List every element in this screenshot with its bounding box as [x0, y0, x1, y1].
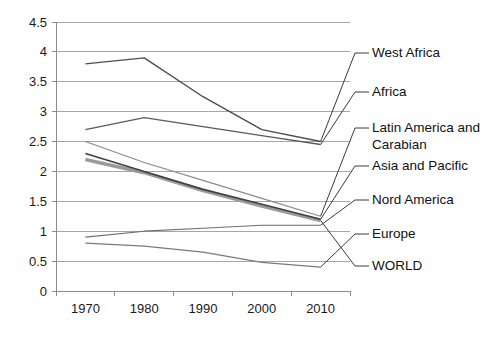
series-line	[85, 58, 320, 142]
x-axis-tick-label: 1970	[71, 301, 100, 316]
legend-label[interactable]: Nord America	[372, 192, 454, 207]
y-axis-tick-label: 0.5	[29, 254, 47, 269]
y-axis-tick-labels: 00.511.522.533.544.5	[29, 15, 47, 299]
legend-label[interactable]: WORLD	[372, 258, 423, 273]
x-axis-tick-label: 2000	[247, 301, 276, 316]
y-axis-tick-label: 2	[40, 164, 47, 179]
y-axis-tick-label: 0	[40, 284, 47, 299]
legend-labels: West AfricaAfricaLatin America andCarabi…	[372, 45, 480, 273]
legend-label[interactable]: Latin America and	[372, 120, 480, 135]
chart-container: 00.511.522.533.544.5 1970198019902000201…	[0, 0, 500, 348]
legend-label-continuation[interactable]: Carabian	[372, 137, 427, 152]
callout-leader-line	[321, 234, 369, 267]
line-chart: 00.511.522.533.544.5 1970198019902000201…	[0, 0, 500, 348]
series-line	[85, 118, 320, 145]
x-axis-tick-label: 2010	[306, 301, 335, 316]
series-line	[85, 142, 320, 217]
x-axis-tick-label: 1990	[189, 301, 218, 316]
y-axis-tick-label: 1.5	[29, 194, 47, 209]
legend-label[interactable]: Asia and Pacific	[372, 158, 468, 173]
series-lines	[85, 58, 320, 267]
x-axis-tick-labels: 19701980199020002010	[71, 301, 335, 316]
y-axis-tick-label: 1	[40, 224, 47, 239]
legend-label[interactable]: Africa	[372, 84, 407, 99]
series-line	[85, 243, 320, 267]
y-axis-tick-label: 4	[40, 44, 47, 59]
callout-leader-line	[321, 92, 369, 145]
x-axis-tick-label: 1980	[130, 301, 159, 316]
legend-label[interactable]: West Africa	[372, 45, 441, 60]
legend-label[interactable]: Europe	[372, 226, 416, 241]
y-axis-tick-label: 3.5	[29, 74, 47, 89]
y-axis-tick-label: 2.5	[29, 134, 47, 149]
callout-leader-lines	[321, 53, 369, 267]
callout-leader-line	[321, 166, 369, 219]
y-axis-tick-label: 4.5	[29, 15, 47, 30]
callout-leader-line	[321, 200, 369, 225]
series-line	[85, 154, 320, 220]
y-axis-tick-label: 3	[40, 104, 47, 119]
